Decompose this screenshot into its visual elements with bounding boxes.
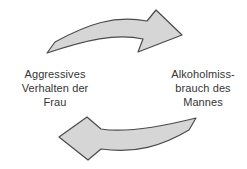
right-node-label-line-3: Mannes bbox=[153, 95, 247, 109]
left-node-label-line-3: Frau bbox=[5, 95, 105, 109]
top-curved-arrow-right-icon bbox=[47, 10, 182, 53]
left-node-label-line-2: Verhalten der bbox=[5, 81, 105, 95]
right-node-label-line-2: brauch des bbox=[153, 81, 247, 95]
left-node-label: Aggressives Verhalten der Frau bbox=[5, 67, 105, 109]
left-node-label-line-1: Aggressives bbox=[5, 67, 105, 81]
right-node-label-line-1: Alkoholmiss- bbox=[153, 67, 247, 81]
cycle-diagram: Aggressives Verhalten der Frau Alkoholmi… bbox=[0, 0, 247, 169]
bottom-curved-arrow-left-icon bbox=[59, 117, 196, 160]
right-node-label: Alkoholmiss- brauch des Mannes bbox=[153, 67, 247, 109]
